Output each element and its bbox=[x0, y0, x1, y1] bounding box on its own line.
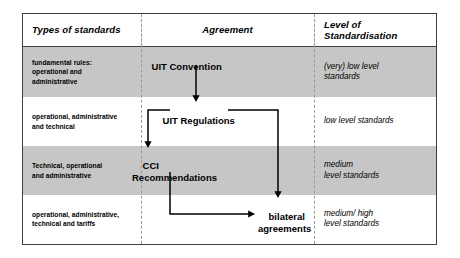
row-1-types-label: fundamental rules:operational andadminis… bbox=[32, 58, 132, 87]
row-4-types-cell: operational, administrative,technical an… bbox=[23, 195, 141, 243]
table-row: Technical, operationaland administrative… bbox=[23, 146, 436, 195]
column-header-level: Level ofStandardisation bbox=[314, 14, 438, 46]
table-header-row: Types of standards Agreement Level ofSta… bbox=[23, 14, 436, 47]
row-4-level-cell: medium/ highlevel standards bbox=[314, 195, 438, 243]
row-1-level-label: (very) low levelstandards bbox=[324, 62, 428, 83]
flow-node-bilateral-agreements-label: bilateralagreements bbox=[258, 211, 311, 234]
diagram-canvas: Types of standards Agreement Level ofSta… bbox=[0, 0, 460, 258]
row-4-level-label: medium/ highlevel standards bbox=[324, 209, 428, 230]
row-3-level-label: mediumlevel standards bbox=[324, 160, 428, 181]
row-2-level-label: low level standards bbox=[324, 116, 428, 127]
flow-node-uit-convention-label: UIT Convention bbox=[152, 61, 222, 72]
row-1-types-cell: fundamental rules:operational andadminis… bbox=[23, 47, 141, 97]
flow-node-uit-convention: UIT Convention bbox=[141, 50, 222, 83]
row-3-types-cell: Technical, operationaland administrative bbox=[23, 146, 141, 195]
flow-node-uit-regulations: UIT Regulations bbox=[152, 104, 235, 137]
row-2-types-label: operational, administrativeand technical bbox=[32, 112, 132, 131]
row-4-types-label: operational, administrative,technical an… bbox=[32, 210, 132, 229]
flow-node-uit-regulations-label: UIT Regulations bbox=[163, 115, 235, 126]
flow-node-bilateral-agreements: bilateralagreements bbox=[258, 199, 311, 247]
row-3-types-label: Technical, operationaland administrative bbox=[32, 161, 132, 180]
row-2-level-cell: low level standards bbox=[314, 97, 438, 146]
column-header-types: Types of standards bbox=[23, 14, 141, 46]
row-3-level-cell: mediumlevel standards bbox=[314, 146, 438, 195]
table-row: operational, administrative,technical an… bbox=[23, 195, 436, 243]
column-separator-1 bbox=[141, 14, 142, 244]
row-2-types-cell: operational, administrativeand technical bbox=[23, 97, 141, 146]
flow-node-cci-recommendations: CCIRecommendations bbox=[132, 148, 217, 196]
column-header-agreement: Agreement bbox=[141, 14, 314, 46]
column-header-agreement-label: Agreement bbox=[149, 24, 306, 36]
column-separator-2 bbox=[314, 14, 315, 244]
table-row: fundamental rules:operational andadminis… bbox=[23, 47, 436, 97]
flow-node-cci-recommendations-label: CCIRecommendations bbox=[132, 160, 217, 183]
column-header-types-label: Types of standards bbox=[32, 24, 132, 36]
column-header-level-label: Level ofStandardisation bbox=[324, 19, 428, 42]
row-1-level-cell: (very) low levelstandards bbox=[314, 47, 438, 97]
